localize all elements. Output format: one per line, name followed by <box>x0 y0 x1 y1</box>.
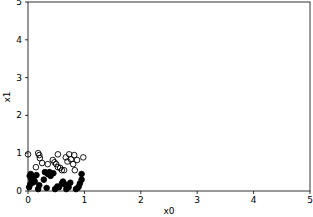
y-tick-label: 5 <box>16 0 22 7</box>
x-tick-label: 1 <box>82 195 88 205</box>
filled-point <box>41 177 47 183</box>
scatter-chart: 012345 012345 x0 x1 <box>0 0 313 217</box>
filled-point <box>51 170 57 176</box>
filled-point <box>44 185 50 191</box>
filled-point <box>35 186 41 192</box>
y-axis-ticks: 012345 <box>16 0 28 196</box>
y-tick-label: 2 <box>16 110 22 120</box>
x-axis-label: x0 <box>163 206 174 216</box>
filled-point <box>79 171 85 177</box>
x-tick-label: 4 <box>251 195 257 205</box>
filled-point <box>64 186 70 192</box>
filled-point <box>75 185 81 191</box>
filled-point <box>34 172 40 178</box>
x-tick-label: 2 <box>138 195 144 205</box>
y-tick-label: 1 <box>16 148 22 158</box>
y-tick-label: 0 <box>16 186 22 196</box>
y-tick-label: 3 <box>16 73 22 83</box>
y-tick-label: 4 <box>16 35 22 45</box>
filled-point <box>68 180 74 186</box>
y-axis-label: x1 <box>2 91 12 102</box>
x-tick-label: 0 <box>25 195 31 205</box>
filled-point <box>26 184 32 190</box>
x-axis-ticks: 012345 <box>25 191 313 205</box>
x-tick-label: 5 <box>307 195 313 205</box>
filled-point <box>79 177 85 183</box>
x-tick-label: 3 <box>194 195 200 205</box>
filled-point <box>55 184 61 190</box>
